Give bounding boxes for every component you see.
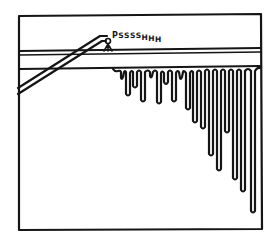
drips: [113, 68, 260, 213]
spray-nozzle-icon: [104, 39, 112, 52]
sound-effect-text: PSSSSHHH: [112, 31, 162, 40]
spray-hose: [18, 36, 107, 94]
ceiling-rail: [19, 48, 261, 69]
